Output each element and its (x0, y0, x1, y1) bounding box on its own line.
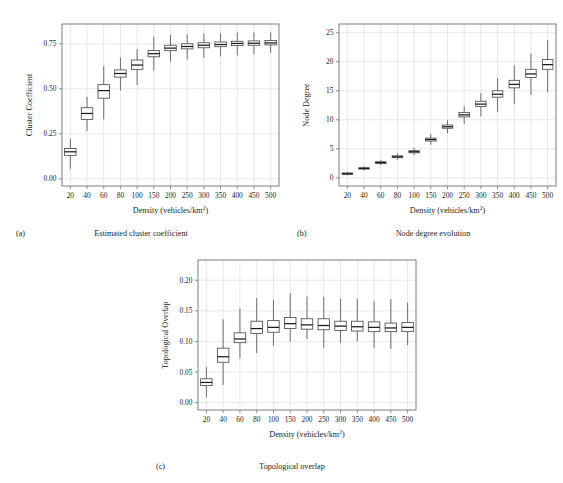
boxplot-chart-a: 0.000.250.500.75204060801001502002503003… (0, 4, 283, 250)
y-axis-tick-label: 0.15 (180, 306, 193, 315)
box-iqr (234, 333, 246, 343)
x-axis-title: Density (vehicles/km2) (133, 205, 209, 215)
x-axis-tick-label: 20 (344, 191, 352, 200)
x-axis-tick-label: 80 (117, 191, 125, 200)
x-axis-tick-label: 300 (335, 415, 346, 424)
panel-letter: (b) (297, 229, 307, 238)
y-axis-tick-label: 0.00 (44, 174, 57, 183)
x-axis-tick-label: 200 (165, 191, 176, 200)
x-axis-tick-label: 250 (459, 191, 470, 200)
x-axis-tick-label: 500 (542, 191, 553, 200)
y-axis-tick-label: 25 (326, 28, 334, 37)
y-axis-title: Node Degree (302, 83, 311, 127)
panel-b-node-degree: 0510152025204060801001502002503003504004… (283, 4, 563, 250)
y-axis-tick-label: 10 (326, 115, 334, 124)
x-axis-tick-label: 500 (265, 191, 276, 200)
x-axis-tick-label: 80 (394, 191, 402, 200)
x-axis-tick-label: 40 (83, 191, 91, 200)
y-axis-title: Topological Overlap (161, 301, 170, 368)
x-axis-tick-label: 100 (409, 191, 420, 200)
y-axis-tick-label: 0.00 (180, 398, 193, 407)
panel-caption: Node degree evolution (396, 229, 471, 238)
y-axis-tick-label: 20 (326, 57, 334, 66)
x-axis-tick-label: 450 (385, 415, 396, 424)
panel-caption: Topological overlap (259, 462, 325, 471)
x-axis-tick-label: 250 (318, 415, 329, 424)
box-iqr (217, 348, 229, 362)
panel-letter: (a) (16, 229, 25, 238)
box-iqr (268, 321, 280, 333)
x-axis-tick-label: 400 (509, 191, 520, 200)
x-axis-tick-label: 450 (525, 191, 536, 200)
x-axis-tick-label: 350 (492, 191, 503, 200)
box-iqr (318, 319, 330, 330)
x-axis-title: Density (vehicles/km2) (410, 205, 486, 215)
x-axis-tick-label: 60 (236, 415, 244, 424)
boxplot-chart-c: 0.000.050.100.150.2020406080100150200250… (140, 250, 430, 483)
panel-letter: (c) (156, 462, 165, 471)
panel-caption: Estimated cluster coefficient (94, 229, 188, 238)
x-axis-tick-label: 300 (198, 191, 209, 200)
x-axis-tick-label: 80 (253, 415, 261, 424)
x-axis-tick-label: 500 (402, 415, 413, 424)
x-axis-tick-label: 350 (352, 415, 363, 424)
y-axis-tick-label: 0.05 (180, 368, 193, 377)
panel-a-cluster-coefficient: 0.000.250.500.75204060801001502002503003… (0, 4, 283, 250)
x-axis-tick-label: 60 (377, 191, 385, 200)
x-axis-tick-label: 400 (232, 191, 243, 200)
y-axis-tick-label: 15 (326, 86, 334, 95)
x-axis-tick-label: 40 (219, 415, 227, 424)
x-axis-tick-label: 200 (442, 191, 453, 200)
figure-panel-group: 0.000.250.500.75204060801001502002503003… (0, 0, 563, 483)
x-axis-tick-label: 40 (360, 191, 368, 200)
x-axis-tick-label: 300 (475, 191, 486, 200)
y-axis-tick-label: 0.10 (180, 337, 193, 346)
x-axis-title: Density (vehicles/km2) (269, 429, 345, 439)
x-axis-tick-label: 100 (268, 415, 279, 424)
x-axis-tick-label: 400 (369, 415, 380, 424)
box-iqr (301, 319, 313, 329)
x-axis-tick-label: 350 (215, 191, 226, 200)
x-axis-tick-label: 20 (67, 191, 75, 200)
x-axis-tick-label: 250 (182, 191, 193, 200)
y-axis-tick-label: 0.25 (44, 129, 57, 138)
y-axis-tick-label: 0.20 (180, 276, 193, 285)
boxplot-chart-b: 0510152025204060801001502002503003504004… (283, 4, 563, 250)
x-axis-tick-label: 150 (148, 191, 159, 200)
x-axis-tick-label: 100 (132, 191, 143, 200)
x-axis-tick-label: 150 (425, 191, 436, 200)
box-iqr (251, 321, 263, 333)
x-axis-tick-label: 150 (285, 415, 296, 424)
y-axis-title: Cluster Coefficient (25, 73, 34, 136)
x-axis-tick-label: 60 (100, 191, 108, 200)
x-axis-tick-label: 450 (248, 191, 259, 200)
x-axis-tick-label: 200 (301, 415, 312, 424)
x-axis-tick-label: 20 (203, 415, 211, 424)
y-axis-tick-label: 0.75 (44, 39, 57, 48)
y-axis-tick-label: 5 (330, 144, 334, 153)
panel-c-topological-overlap: 0.000.050.100.150.2020406080100150200250… (140, 250, 430, 483)
box-iqr (98, 85, 110, 99)
y-axis-tick-label: 0 (330, 173, 334, 182)
y-axis-tick-label: 0.50 (44, 84, 57, 93)
